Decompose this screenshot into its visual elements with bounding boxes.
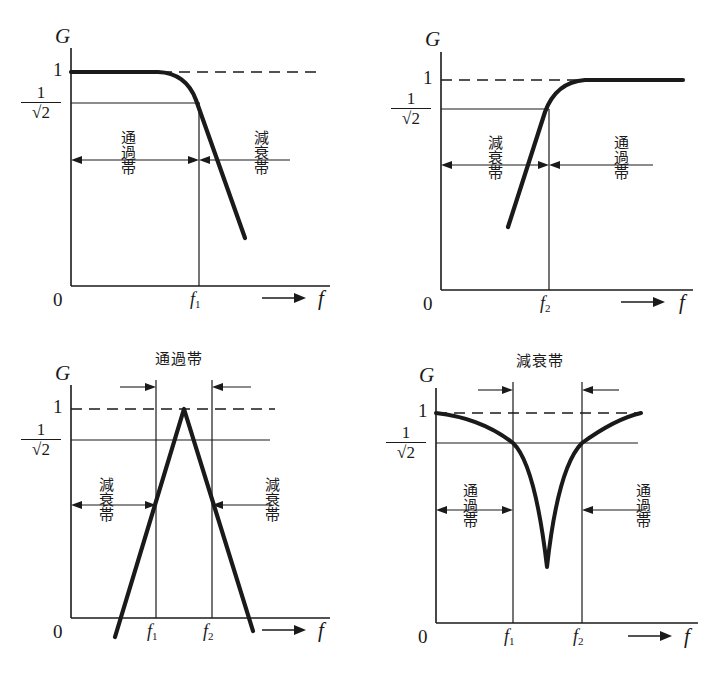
passband-label: 通過帯	[119, 130, 134, 175]
x-tick-f2: f2	[540, 294, 551, 312]
chart-band-pass-filter: G 1 1 √2 0 f1 f2 f 通過帯 減衰帯 減衰帯	[0, 340, 353, 680]
response-curve	[508, 80, 683, 227]
y-tick-one: 1	[423, 68, 433, 87]
stopband-label: 減衰帯	[252, 130, 267, 175]
x-tick-f1: f1	[504, 627, 515, 645]
response-curve	[115, 409, 253, 637]
chart-low-pass-filter: G 1 1 √2 0 f1 f 通過帯 減衰帯	[0, 0, 353, 340]
y-tick-half-power: 1 √2	[388, 90, 434, 130]
passband-right-arrow-icon	[188, 156, 199, 164]
fraction-numerator: 1	[18, 84, 64, 101]
frequency-arrow-icon	[294, 293, 306, 303]
passband-left-arrow-icon	[549, 161, 560, 169]
passband-left-arrow-icon	[71, 156, 82, 164]
stopband-label-left: 減衰帯	[97, 477, 112, 522]
y-axis-label: G	[55, 363, 70, 384]
x-tick-f2: f2	[203, 622, 214, 640]
y-axis-label: G	[55, 26, 70, 47]
origin-label: 0	[53, 622, 63, 641]
origin-label: 0	[53, 290, 63, 309]
passband-label-left: 通過帯	[461, 483, 476, 528]
passband-left-outer-arrow-icon	[436, 506, 447, 514]
passband-left-arrow-icon	[212, 383, 223, 391]
x-tick-f2: f2	[573, 627, 584, 645]
passband-label: 通過帯	[612, 135, 627, 180]
high-pass-plot	[353, 0, 706, 340]
fraction-denominator: √2	[383, 444, 429, 464]
origin-label: 0	[418, 627, 428, 646]
y-tick-one: 1	[418, 401, 428, 420]
x-tick-f1: f1	[147, 622, 158, 640]
fraction-denominator: √2	[18, 104, 64, 124]
passband-left-inner-arrow-icon	[502, 506, 513, 514]
passband-label: 通過帯	[155, 347, 203, 368]
stopband-right-arrow-icon	[538, 161, 549, 169]
frequency-arrow-icon	[653, 297, 665, 307]
stopband-left-arrow-icon	[441, 161, 452, 169]
chart-high-pass-filter: G 1 1 √2 0 f2 f 減衰帯 通過帯	[353, 0, 706, 340]
passband-right-arrow-icon	[145, 383, 156, 391]
y-tick-half-power: 1 √2	[18, 421, 64, 461]
fraction-numerator: 1	[388, 90, 434, 107]
x-axis-label: f	[684, 626, 690, 647]
y-tick-one: 1	[53, 60, 63, 79]
fraction-numerator: 1	[383, 424, 429, 441]
stopband-label: 減衰帯	[516, 349, 564, 370]
stopband-right-arrow-icon	[502, 386, 513, 394]
y-tick-half-power: 1 √2	[18, 84, 64, 124]
y-axis-label: G	[419, 365, 434, 386]
chart-band-stop-filter: G 1 1 √2 0 f1 f2 f 減衰帯 通過帯 通過帯	[353, 340, 706, 680]
x-tick-f1: f1	[190, 290, 201, 308]
y-axis-label: G	[425, 29, 440, 50]
frequency-arrow-icon	[294, 625, 306, 635]
stopband-label-right: 減衰帯	[263, 477, 278, 522]
fraction-denominator: √2	[18, 441, 64, 461]
frequency-arrow-icon	[660, 631, 672, 641]
band-stop-plot	[353, 340, 706, 680]
response-curve	[71, 72, 245, 238]
fraction-numerator: 1	[18, 421, 64, 438]
passband-right-inner-arrow-icon	[582, 506, 593, 514]
origin-label: 0	[423, 294, 433, 313]
stopband-label: 減衰帯	[486, 135, 501, 180]
x-axis-label: f	[679, 292, 685, 313]
passband-label-right: 通過帯	[634, 483, 649, 528]
stopband-left-arrow-icon	[582, 386, 593, 394]
y-tick-one: 1	[53, 397, 63, 416]
x-axis-label: f	[318, 620, 324, 641]
stopband-left-arrow-icon	[199, 156, 210, 164]
fraction-denominator: √2	[388, 110, 434, 130]
filter-response-figure: G 1 1 √2 0 f1 f 通過帯 減衰帯 G 1	[0, 0, 706, 680]
x-axis-label: f	[318, 288, 324, 309]
y-tick-half-power: 1 √2	[383, 424, 429, 464]
stopband-left-outer-arrow-icon	[71, 501, 82, 509]
